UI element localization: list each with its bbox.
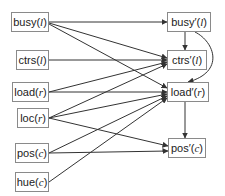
node-arg: r bbox=[197, 86, 201, 98]
node-load: load(r) bbox=[12, 82, 49, 102]
edge-loc-ctrs-prime bbox=[49, 64, 167, 118]
node-label: pos bbox=[17, 147, 35, 159]
node-pos: pos(c) bbox=[15, 143, 49, 163]
node-label: load′ bbox=[171, 86, 194, 98]
node-arg: l bbox=[200, 16, 203, 28]
node-arg: c bbox=[38, 147, 43, 159]
node-busy-prime: busy′(l) bbox=[167, 12, 211, 32]
node-ctrs-prime: ctrs′(l) bbox=[167, 50, 207, 70]
node-ctrs: ctrs(l) bbox=[16, 50, 49, 70]
node-load-prime: load′(r) bbox=[167, 82, 209, 102]
edge-pos-load-prime bbox=[49, 96, 167, 153]
node-arg: l bbox=[40, 16, 43, 28]
node-label: hue bbox=[17, 176, 35, 188]
node-arg: l bbox=[40, 54, 43, 66]
edge-loc-pos-prime bbox=[49, 118, 168, 146]
edge-loc-load-prime bbox=[49, 94, 167, 118]
node-arg: l bbox=[195, 54, 198, 66]
edge-busy-load-prime bbox=[49, 24, 167, 88]
node-arg: c bbox=[194, 142, 199, 154]
edge-load-ctrs-prime bbox=[49, 62, 167, 92]
node-loc: loc(r) bbox=[17, 108, 49, 128]
node-arg: c bbox=[39, 176, 44, 188]
node-arg: r bbox=[39, 86, 43, 98]
node-label: load bbox=[14, 86, 35, 98]
edge-hue-load-prime bbox=[49, 98, 167, 182]
node-label: ctrs bbox=[18, 54, 36, 66]
node-label: busy bbox=[13, 16, 36, 28]
edge-busy-ctrs-prime bbox=[49, 23, 167, 58]
node-label: loc bbox=[20, 112, 34, 124]
node-label: busy′ bbox=[171, 16, 196, 28]
node-label: pos′ bbox=[171, 142, 191, 154]
edge-pos-pos-prime bbox=[49, 151, 168, 153]
node-pos-prime: pos′(c) bbox=[168, 138, 206, 158]
node-label: ctrs′ bbox=[172, 54, 192, 66]
node-busy: busy(l) bbox=[11, 12, 49, 32]
node-arg: r bbox=[38, 112, 42, 124]
node-hue: hue(c) bbox=[15, 172, 49, 192]
